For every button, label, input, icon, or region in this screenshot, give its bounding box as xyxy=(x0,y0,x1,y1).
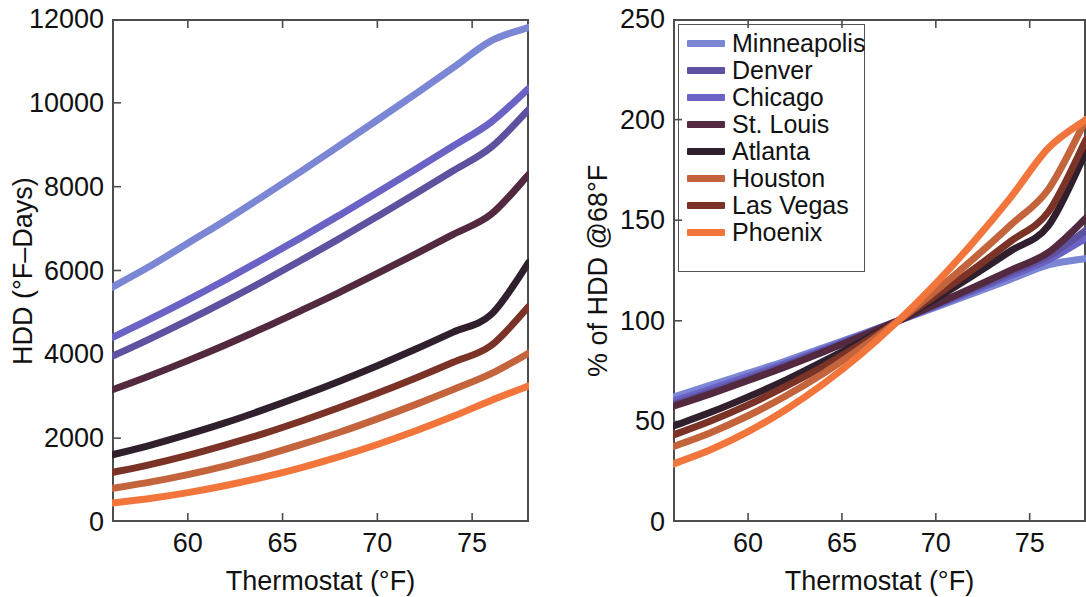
x-tick-label: 70 xyxy=(921,530,951,557)
y-axis-title-right: % of HDD @68°F xyxy=(583,164,614,376)
legend-label: Atlanta xyxy=(732,139,810,164)
legend-item[interactable]: Las Vegas xyxy=(687,192,856,219)
legend-item[interactable]: Chicago xyxy=(687,84,856,111)
legend-item[interactable]: Atlanta xyxy=(687,138,856,165)
y-tick-label: 150 xyxy=(620,207,665,234)
plot-area-left xyxy=(112,19,529,522)
x-tick-label: 75 xyxy=(1015,530,1045,557)
legend-item[interactable]: Denver xyxy=(687,57,856,84)
y-tick-label: 0 xyxy=(650,509,665,536)
y-tick-label: 2000 xyxy=(44,425,104,452)
legend-label: Houston xyxy=(732,166,825,191)
y-tick-label: 10000 xyxy=(29,89,104,116)
legend-color-swatch xyxy=(687,148,725,155)
y-tick-label: 0 xyxy=(89,509,104,536)
x-axis-title-right: Thermostat (°F) xyxy=(785,566,974,597)
y-tick-label: 4000 xyxy=(44,341,104,368)
x-tick-label: 60 xyxy=(733,530,763,557)
y-tick-label: 50 xyxy=(635,408,665,435)
legend-label: Denver xyxy=(732,58,813,83)
y-tick-label: 100 xyxy=(620,307,665,334)
x-axis-title-left: Thermostat (°F) xyxy=(226,566,415,597)
x-tick-label: 75 xyxy=(457,530,487,557)
panel-hdd-absolute: 020004000600080001000012000 60657075 HDD… xyxy=(0,0,543,584)
legend-color-swatch xyxy=(687,175,725,182)
legend-label: Minneapolis xyxy=(732,31,865,56)
legend-color-swatch xyxy=(687,229,725,236)
y-tick-label: 250 xyxy=(620,6,665,33)
legend-item[interactable]: Houston xyxy=(687,165,856,192)
legend-color-swatch xyxy=(687,121,725,128)
legend-item[interactable]: Phoenix xyxy=(687,219,856,246)
x-tick-label: 65 xyxy=(268,530,298,557)
legend-color-swatch xyxy=(687,94,725,101)
legend-color-swatch xyxy=(687,202,725,209)
legend-label: Phoenix xyxy=(732,220,822,245)
legend-label: Las Vegas xyxy=(732,193,849,218)
legend-color-swatch xyxy=(687,67,725,74)
y-axis-title-left: HDD (°F–Days) xyxy=(8,177,39,365)
panel-hdd-percent: 050100150200250 60657075 % of HDD @68°F … xyxy=(543,0,1086,584)
legend-label: St. Louis xyxy=(732,112,829,137)
x-tick-label: 70 xyxy=(362,530,392,557)
y-tick-label: 200 xyxy=(620,106,665,133)
legend-item[interactable]: Minneapolis xyxy=(687,30,856,57)
legend-item[interactable]: St. Louis xyxy=(687,111,856,138)
x-tick-label: 60 xyxy=(173,530,203,557)
legend: MinneapolisDenverChicagoSt. LouisAtlanta… xyxy=(678,24,865,272)
legend-color-swatch xyxy=(687,40,725,47)
legend-label: Chicago xyxy=(732,85,824,110)
y-tick-label: 12000 xyxy=(29,6,104,33)
y-tick-label: 6000 xyxy=(44,257,104,284)
x-tick-label: 65 xyxy=(827,530,857,557)
y-tick-label: 8000 xyxy=(44,173,104,200)
